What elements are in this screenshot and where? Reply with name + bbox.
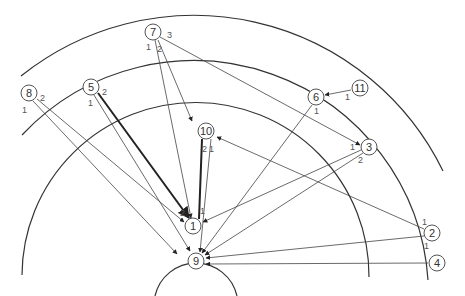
port-label: 1 <box>314 106 319 116</box>
node-7[interactable]: 7 <box>145 24 161 40</box>
port-label: 1 <box>350 142 355 152</box>
port-label: 1 <box>88 98 93 108</box>
node-9[interactable]: 9 <box>188 253 204 269</box>
port-label: 1 <box>22 105 27 115</box>
node-label: 7 <box>150 26 156 38</box>
edge-3-port-2[interactable] <box>205 153 363 255</box>
edge-7-port-3[interactable] <box>160 37 360 145</box>
node-label: 9 <box>193 255 199 267</box>
port-label: 2 <box>202 144 207 154</box>
edge-7-port-1[interactable] <box>155 40 191 218</box>
node-8[interactable]: 8 <box>21 85 37 101</box>
edge-3-port-1[interactable] <box>203 150 361 222</box>
node-4[interactable]: 4 <box>429 255 445 271</box>
edge-5-port-1[interactable] <box>94 95 190 251</box>
node-label: 4 <box>434 257 440 269</box>
port-label: 1 <box>209 144 214 154</box>
arc-ring-4 <box>21 15 443 171</box>
node-1[interactable]: 1 <box>185 218 201 234</box>
edge-5-port-2[interactable] <box>98 93 189 218</box>
port-label: 2 <box>358 155 363 165</box>
node-label: 6 <box>313 91 319 103</box>
port-label: 2 <box>157 44 162 54</box>
port-label: 1 <box>422 217 427 227</box>
nodes: 1234567891011 <box>21 24 445 271</box>
edge-8-port-2[interactable] <box>37 99 184 222</box>
port-label: 1 <box>200 206 205 216</box>
edge-2-port-1[interactable] <box>217 137 424 229</box>
node-label: 11 <box>354 82 365 94</box>
node-2[interactable]: 2 <box>424 225 440 241</box>
network-diagram: 12121232111121121 1234567891011 <box>0 0 465 296</box>
node-label: 3 <box>366 141 372 153</box>
node-10[interactable]: 10 <box>198 123 214 139</box>
node-label: 5 <box>88 81 94 93</box>
node-11[interactable]: 11 <box>352 80 368 96</box>
node-6[interactable]: 6 <box>308 89 324 105</box>
port-label: 2 <box>102 87 107 97</box>
edge-6-port-1[interactable] <box>202 105 312 253</box>
port-label: 2 <box>180 208 185 218</box>
port-label: 3 <box>167 30 172 40</box>
node-3[interactable]: 3 <box>361 139 377 155</box>
port-label: 1 <box>345 92 350 102</box>
node-label: 8 <box>26 87 32 99</box>
node-5[interactable]: 5 <box>83 79 99 95</box>
edge-2-port-1b[interactable] <box>206 236 424 258</box>
port-label: 1 <box>424 241 429 251</box>
port-label: 2 <box>40 93 45 103</box>
edge-4-port-1[interactable] <box>206 263 428 264</box>
node-label: 2 <box>429 227 435 239</box>
port-label: 1 <box>146 42 151 52</box>
arc-ring-2 <box>22 102 369 277</box>
edge-8-port-1[interactable] <box>33 101 177 254</box>
node-label: 1 <box>190 220 196 232</box>
node-label: 10 <box>200 125 212 137</box>
